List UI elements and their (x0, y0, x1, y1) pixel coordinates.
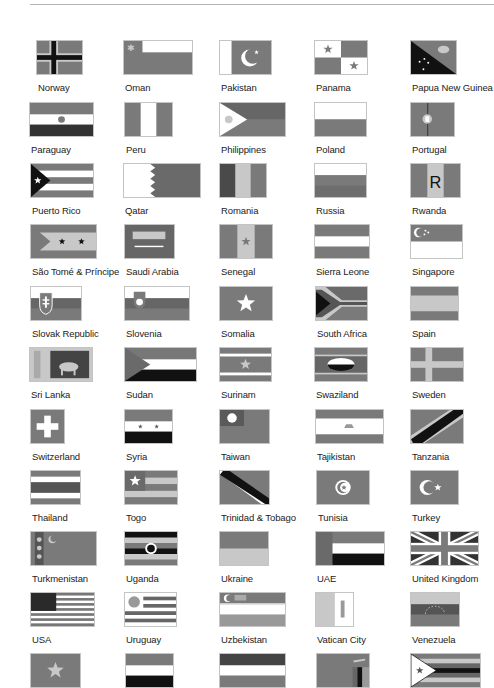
country-label: Russia (316, 205, 344, 216)
flag-s-o-tom-pr-ncipe (30, 224, 97, 259)
flag-turkey (410, 470, 459, 505)
flag-oman: ✱ (123, 40, 193, 75)
country-label: Swaziland (316, 389, 358, 400)
country-label: Somalia (221, 328, 255, 339)
flag-uae (315, 531, 385, 566)
country-label: Singapore (412, 266, 454, 277)
flag-portugal (410, 102, 455, 137)
flag-peru (124, 102, 173, 137)
country-label: Sierra Leone (316, 266, 369, 277)
country-label: South Africa (317, 328, 367, 339)
flag-puerto-rico (30, 163, 94, 198)
flag-yemen (125, 653, 174, 688)
country-label: Peru (126, 144, 146, 155)
country-label: Spain (412, 328, 436, 339)
flag-trinidad-tobago (219, 470, 270, 505)
flag-russia (314, 163, 367, 198)
country-label: Portugal (412, 144, 447, 155)
country-label: Paraguay (31, 144, 71, 155)
flag-uganda (124, 531, 178, 566)
flag-romania (219, 163, 267, 198)
flag-turkmenistan (30, 531, 97, 566)
flag-taiwan (219, 409, 270, 444)
flag-tanzania (410, 409, 464, 444)
flag-uzbekistan (219, 592, 286, 627)
flag-somalia (219, 286, 273, 321)
flag-philippines (219, 102, 286, 137)
flag-togo (124, 470, 178, 505)
country-label: Togo (126, 512, 146, 523)
country-label: Tunisia (318, 512, 348, 523)
flag-slovak-republic (30, 286, 82, 321)
country-label: Sri Lanka (31, 389, 70, 400)
country-label: Rwanda (412, 205, 446, 216)
country-label: Turkmenistan (32, 573, 88, 584)
flag-slovenia (124, 286, 190, 321)
country-label: Uzbekistan (221, 634, 267, 645)
country-label: Venezuela (412, 634, 455, 645)
flag-panama (314, 40, 368, 75)
flag-pakistan (219, 40, 272, 75)
country-label: Saudi Arabia (126, 266, 179, 277)
country-label: Papua New Guinea (412, 82, 493, 93)
country-label: Romania (221, 205, 258, 216)
flag-ukraine (219, 531, 269, 566)
flag-vatican-city (315, 592, 354, 627)
country-label: Vatican City (317, 634, 366, 645)
country-label: Sudan (126, 389, 153, 400)
country-label: Trinidad & Tobago (221, 512, 296, 523)
flag-singapore (410, 224, 463, 259)
country-label: Switzerland (32, 451, 80, 462)
flag-syria (124, 409, 173, 444)
flag-papua-new-guinea (410, 40, 457, 75)
flag-saudi-arabia (124, 224, 175, 259)
country-label: Tajikistan (317, 451, 355, 462)
flag-thailand (30, 470, 81, 505)
flag-sierra-leone (314, 224, 370, 259)
flag-sri-lanka (29, 347, 93, 382)
svg-text:R: R (430, 173, 442, 191)
country-label: Syria (126, 451, 147, 462)
flag-united-kingdom (410, 531, 479, 566)
flag-senegal (219, 224, 273, 259)
country-label: USA (32, 634, 51, 645)
country-label: Oman (125, 82, 150, 93)
flag-uruguay (124, 592, 177, 627)
country-label: Ukraine (221, 573, 253, 584)
country-label: Turkey (412, 512, 440, 523)
country-label: Slovenia (126, 328, 162, 339)
country-label: Thailand (32, 512, 68, 523)
flag-zambia (316, 653, 370, 688)
flag-spain (410, 286, 459, 321)
flag-surinam (219, 347, 272, 382)
flag-tajikistan (315, 409, 384, 444)
flag-vietnam (30, 653, 81, 688)
flag-rwanda: R (410, 163, 461, 198)
country-label: Uruguay (126, 634, 161, 645)
flag-usa (30, 592, 95, 627)
flag-paraguay (29, 102, 94, 137)
country-label: Senegal (221, 266, 255, 277)
flag-switzerland (30, 409, 65, 444)
country-label: Tanzania (412, 451, 449, 462)
top-rule (30, 4, 494, 5)
flag-tunisia (316, 470, 370, 505)
country-label: Pakistan (221, 82, 257, 93)
flag-norway (36, 40, 83, 75)
country-label: Panama (316, 82, 351, 93)
country-label: Sweden (412, 389, 446, 400)
flag-venezuela (410, 592, 460, 627)
country-label: Uganda (126, 573, 159, 584)
flag-sudan (124, 347, 197, 382)
flag-poland (314, 102, 367, 137)
country-label: Puerto Rico (32, 205, 81, 216)
country-label: UAE (317, 573, 336, 584)
country-label: Surinam (221, 389, 256, 400)
flag-zimbabwe (410, 653, 481, 688)
flag-sweden (410, 347, 464, 382)
flag-south-africa (315, 286, 368, 321)
country-label: Qatar (125, 205, 148, 216)
country-label: Norway (38, 82, 70, 93)
country-label: Poland (316, 144, 345, 155)
country-label: Philippines (221, 144, 266, 155)
